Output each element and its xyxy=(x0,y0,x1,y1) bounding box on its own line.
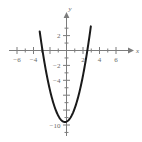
y-tick-label: −4 xyxy=(53,77,61,85)
parabola-figure: −6−4246 2−2−4−10 x y xyxy=(0,0,142,142)
x-tick-label: 4 xyxy=(98,56,102,64)
y-tick-label: −2 xyxy=(53,62,61,70)
x-tick-label: −4 xyxy=(30,56,38,64)
plot-background xyxy=(0,0,142,142)
y-tick-label: 2 xyxy=(57,32,61,40)
x-tick-label: 6 xyxy=(114,56,118,64)
x-tick-label: −6 xyxy=(13,56,21,64)
y-tick-label: −10 xyxy=(50,122,61,130)
parabola-plot: −6−4246 2−2−4−10 x y xyxy=(0,0,142,142)
x-tick-label: 2 xyxy=(81,56,85,64)
